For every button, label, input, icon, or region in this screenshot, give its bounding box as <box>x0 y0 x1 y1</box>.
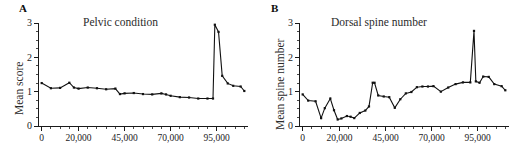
data-point-marker <box>383 95 385 97</box>
data-point-marker <box>364 109 366 111</box>
data-point-marker <box>447 86 449 88</box>
y-tick-label: 1 <box>27 86 32 97</box>
data-point-marker <box>206 97 208 99</box>
data-point-marker <box>197 97 199 99</box>
y-tick-label: 1 <box>288 86 293 97</box>
data-point-marker <box>349 116 351 118</box>
data-point-marker <box>432 85 434 87</box>
x-tick-label: 70,000 <box>419 133 445 143</box>
data-point-marker <box>368 105 370 107</box>
data-point-marker <box>462 81 464 83</box>
data-point-marker <box>478 82 480 84</box>
x-tick-label: 0 <box>300 133 305 143</box>
data-point-marker <box>427 85 429 87</box>
data-point-marker <box>59 87 61 89</box>
x-tick-label: 20,000 <box>326 133 352 143</box>
data-point-marker <box>302 93 304 95</box>
data-point-marker <box>504 89 506 91</box>
y-tick-label: 2 <box>288 52 293 63</box>
data-point-marker <box>473 30 475 32</box>
data-point-marker <box>346 115 348 117</box>
data-point-marker <box>123 92 125 94</box>
figure-container: A Pelvic condition Mean score 0123020,00… <box>0 0 521 164</box>
data-point-marker <box>151 93 153 95</box>
data-point-marker <box>227 82 229 84</box>
data-point-marker <box>469 81 471 83</box>
data-series-line <box>42 25 245 99</box>
y-tick-label: 0 <box>288 120 293 131</box>
data-point-marker <box>133 92 135 94</box>
data-point-marker <box>421 85 423 87</box>
data-point-marker <box>324 107 326 109</box>
data-point-marker <box>170 95 172 97</box>
data-point-marker <box>142 93 144 95</box>
data-point-marker <box>119 93 121 95</box>
data-point-marker <box>377 94 379 96</box>
data-point-marker <box>388 96 390 98</box>
data-point-marker <box>340 117 342 119</box>
x-tick-label: 45,000 <box>112 133 138 143</box>
y-tick-label: 2 <box>27 52 32 63</box>
data-point-marker <box>353 117 355 119</box>
panel-b-plot: 0123020,00045,00070,00095,000 <box>261 0 521 164</box>
data-point-marker <box>337 118 339 120</box>
x-tick-label: 70,000 <box>158 133 184 143</box>
data-point-marker <box>333 109 335 111</box>
data-point-marker <box>232 85 234 87</box>
x-tick-label: 20,000 <box>65 133 91 143</box>
data-point-marker <box>399 98 401 100</box>
data-point-marker <box>212 97 214 99</box>
data-point-marker <box>41 82 43 84</box>
data-point-marker <box>394 107 396 109</box>
data-point-marker <box>493 83 495 85</box>
data-point-marker <box>105 88 107 90</box>
data-point-marker <box>410 91 412 93</box>
data-point-marker <box>454 83 456 85</box>
data-point-marker <box>50 87 52 89</box>
y-tick-label: 3 <box>288 17 293 28</box>
y-tick-label: 0 <box>27 120 32 131</box>
data-point-marker <box>329 97 331 99</box>
data-point-marker <box>221 75 223 77</box>
data-point-marker <box>359 112 361 114</box>
data-point-marker <box>501 85 503 87</box>
x-tick-label: 45,000 <box>373 133 399 143</box>
panel-a-plot: 0123020,00045,00070,00095,000 <box>0 0 260 164</box>
data-point-marker <box>77 87 79 89</box>
data-point-marker <box>320 117 322 119</box>
data-point-marker <box>87 86 89 88</box>
data-point-marker <box>405 92 407 94</box>
data-point-marker <box>217 31 219 33</box>
data-series-line <box>303 31 506 120</box>
data-point-marker <box>160 92 162 94</box>
x-tick-label: 95,000 <box>465 133 491 143</box>
panel-b: B Dorsal spine number Mean spine number … <box>261 0 521 164</box>
data-point-marker <box>440 91 442 93</box>
data-point-marker <box>68 82 70 84</box>
data-point-marker <box>179 96 181 98</box>
data-point-marker <box>240 85 242 87</box>
data-point-marker <box>188 96 190 98</box>
data-point-marker <box>96 87 98 89</box>
panel-a: A Pelvic condition Mean score 0123020,00… <box>0 0 260 164</box>
data-point-marker <box>416 86 418 88</box>
data-point-marker <box>482 75 484 77</box>
data-point-marker <box>488 76 490 78</box>
data-point-marker <box>73 86 75 88</box>
data-point-marker <box>307 99 309 101</box>
data-point-marker <box>243 90 245 92</box>
data-point-marker <box>214 24 216 26</box>
data-point-marker <box>373 82 375 84</box>
y-tick-label: 3 <box>27 17 32 28</box>
x-tick-label: 0 <box>39 133 44 143</box>
x-tick-label: 95,000 <box>204 133 230 143</box>
data-point-marker <box>314 100 316 102</box>
data-point-marker <box>165 93 167 95</box>
data-point-marker <box>114 87 116 89</box>
data-point-marker <box>475 80 477 82</box>
